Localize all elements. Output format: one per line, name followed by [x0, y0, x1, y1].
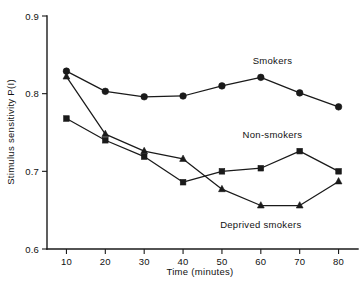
- data-point-square: [297, 148, 303, 154]
- series-label-smokers: Smokers: [253, 55, 293, 66]
- data-point-square: [103, 137, 109, 143]
- series-label-deprived-smokers: Deprived smokers: [220, 219, 301, 230]
- x-tick-label: 30: [139, 256, 150, 267]
- data-point-circle: [141, 93, 148, 100]
- data-point-square: [64, 116, 70, 122]
- x-tick-label: 10: [61, 256, 72, 267]
- data-point-circle: [258, 74, 265, 81]
- figure-container: 0.60.70.80.9 1020304050607080 SmokersNon…: [0, 0, 362, 281]
- data-point-circle: [102, 88, 109, 95]
- data-point-square: [219, 169, 225, 175]
- x-axis-title: Time (minutes): [166, 266, 233, 277]
- y-tick-label: 0.6: [25, 244, 39, 255]
- data-point-square: [141, 154, 147, 160]
- chart-background: [0, 0, 362, 281]
- data-point-square: [258, 165, 264, 171]
- y-tick-label: 0.8: [25, 88, 39, 99]
- y-tick-label: 0.9: [25, 11, 39, 22]
- series-label-non-smokers: Non-smokers: [243, 129, 303, 140]
- x-tick-label: 80: [333, 256, 344, 267]
- data-point-circle: [335, 104, 342, 111]
- y-axis-title: Stimulus sensitivity P(I): [5, 79, 16, 185]
- x-tick-label: 60: [255, 256, 266, 267]
- data-point-square: [336, 169, 342, 175]
- x-tick-label: 20: [100, 256, 111, 267]
- data-point-circle: [219, 83, 226, 90]
- data-point-square: [180, 179, 186, 185]
- x-tick-label: 70: [294, 256, 305, 267]
- y-tick-label: 0.7: [25, 166, 39, 177]
- data-point-circle: [296, 90, 303, 97]
- line-chart: 0.60.70.80.9 1020304050607080 SmokersNon…: [0, 0, 362, 281]
- data-point-circle: [180, 93, 187, 100]
